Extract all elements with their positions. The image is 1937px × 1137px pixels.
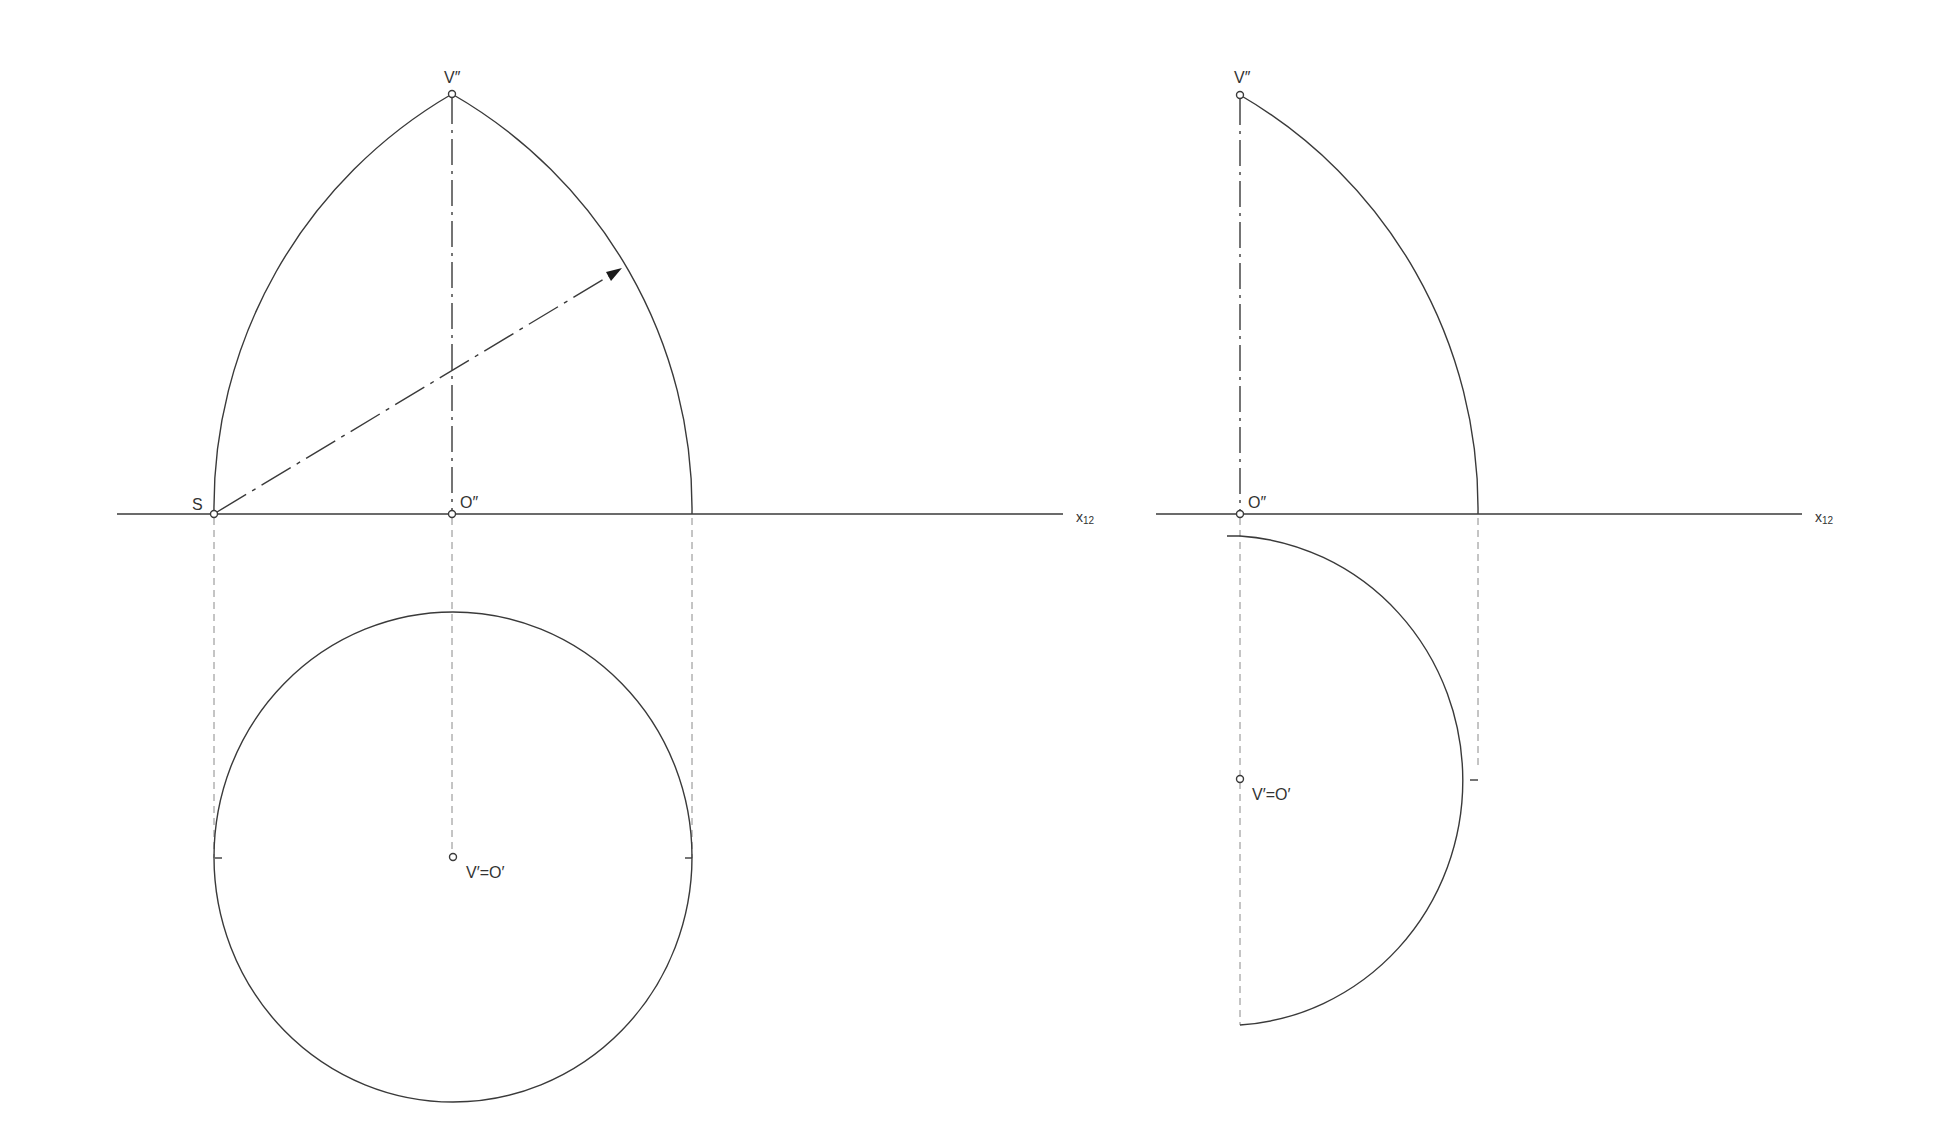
label-v-front: V″ (444, 69, 461, 86)
right-label-o-front: O″ (1248, 494, 1266, 511)
right-point-o-front (1237, 511, 1244, 518)
label-o-front: O″ (460, 494, 478, 511)
radius-line (217, 273, 614, 512)
label-s: S (192, 496, 203, 513)
half-base-circle (1227, 536, 1463, 1025)
arrow-head (606, 268, 622, 281)
point-o-front (449, 511, 456, 518)
right-label-axis: x12 (1815, 509, 1834, 526)
right-point-v-front (1237, 92, 1244, 99)
point-v-front (449, 91, 456, 98)
right-label-v-top: V′=O′ (1252, 786, 1290, 803)
right-labels: V″ O″ x12 V′=O′ (1234, 69, 1834, 803)
ogive-left-arc (214, 94, 452, 514)
left-view (117, 91, 1063, 1103)
point-s (211, 511, 218, 518)
technical-drawing: V″ S O″ x12 V′=O′ V″ O″ x12 V′=O′ (0, 0, 1937, 1137)
label-v-top: V′=O′ (466, 864, 504, 881)
right-point-v-top (1237, 776, 1244, 783)
left-labels: V″ S O″ x12 V′=O′ (192, 69, 1095, 881)
half-ogive-arc (1240, 95, 1478, 514)
right-label-v-front: V″ (1234, 69, 1251, 86)
point-v-top (450, 854, 457, 861)
label-axis: x12 (1076, 509, 1095, 526)
ogive-right-arc (452, 94, 692, 514)
right-view (1156, 92, 1802, 1026)
